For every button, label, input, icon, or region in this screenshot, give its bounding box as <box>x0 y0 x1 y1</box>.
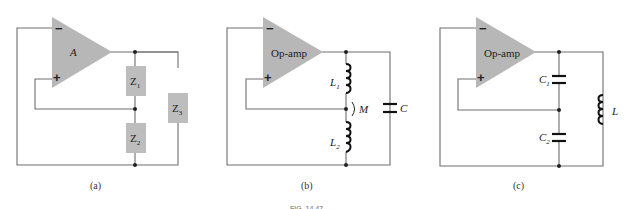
node-dot <box>557 108 561 112</box>
noninverting-input-a: + <box>53 70 61 85</box>
inverting-input-b: − <box>266 21 274 36</box>
panel-c: − + Op-amp C1 C2 L (c) <box>440 17 618 192</box>
l-label: L <box>611 105 618 117</box>
node-dot <box>557 164 561 168</box>
oscillator-circuits-figure: − + A Z1 Z2 Z3 (a) − + Op-amp L1 L2 M <box>0 0 630 209</box>
node-dot <box>344 163 348 167</box>
l1-label: L1 <box>329 76 340 91</box>
inverting-input-a: − <box>55 21 63 36</box>
l2-label: L2 <box>329 136 340 151</box>
mutual-coupling-arrow-icon <box>352 102 355 116</box>
noninverting-input-c: + <box>477 70 485 85</box>
caption-b: (b) <box>301 180 313 192</box>
caption-c: (c) <box>513 180 524 192</box>
c1-label: C1 <box>539 73 550 88</box>
node-dot <box>344 50 348 54</box>
amplifier-label-b: Op-amp <box>271 47 308 59</box>
amplifier-label-c: Op-amp <box>484 47 521 59</box>
caption-a: (a) <box>90 180 101 192</box>
amplifier-label-a: A <box>69 46 77 58</box>
node-dot <box>557 50 561 54</box>
panel-a: − + A Z1 Z2 Z3 (a) <box>17 17 188 192</box>
c-label: C <box>400 102 408 114</box>
inductor-l2 <box>346 122 351 152</box>
m-label: M <box>358 103 369 115</box>
c2-label: C2 <box>539 131 550 146</box>
inductor-l1 <box>346 64 351 93</box>
node-dot <box>133 50 137 54</box>
figure-caption: FIG. 14.47 <box>290 205 323 209</box>
inductor-l <box>599 95 604 124</box>
inverting-input-c: − <box>479 21 487 36</box>
node-dot <box>344 107 348 111</box>
noninverting-input-b: + <box>264 70 272 85</box>
node-dot <box>133 107 137 111</box>
node-dot <box>133 163 137 167</box>
panel-b: − + Op-amp L1 L2 M C (b) <box>227 17 408 192</box>
